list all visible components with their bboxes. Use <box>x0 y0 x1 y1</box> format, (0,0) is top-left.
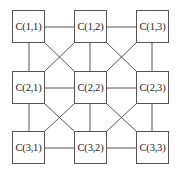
node-label: C(3,3) <box>140 142 166 153</box>
node-label: C(2,2) <box>78 82 104 93</box>
node-c12: C(1,2) <box>74 10 107 43</box>
node-label: C(1,1) <box>16 21 42 32</box>
node-c21: C(2,1) <box>12 71 45 104</box>
node-c32: C(3,2) <box>74 131 107 164</box>
node-c22: C(2,2) <box>74 71 107 104</box>
node-label: C(2,1) <box>16 82 42 93</box>
node-c13: C(1,3) <box>136 10 169 43</box>
node-label: C(2,3) <box>140 82 166 93</box>
node-label: C(1,3) <box>140 21 166 32</box>
node-c11: C(1,1) <box>12 10 45 43</box>
node-c23: C(2,3) <box>136 71 169 104</box>
node-label: C(3,2) <box>78 142 104 153</box>
node-c31: C(3,1) <box>12 131 45 164</box>
node-label: C(1,2) <box>78 21 104 32</box>
node-c33: C(3,3) <box>136 131 169 164</box>
node-label: C(3,1) <box>16 142 42 153</box>
